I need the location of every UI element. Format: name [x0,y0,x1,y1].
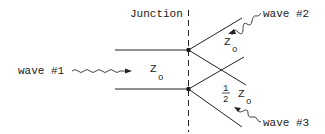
lower-coefficient-denominator: 2 [223,95,228,105]
upper-impedance-symbol: Z [224,36,231,48]
lower-coefficient-numerator: 1 [223,84,228,94]
transmission-line-junction-diagram: Junction wave #1 Z o wave #2 Z o 1 2 Z o… [0,0,325,134]
wave2-squiggle-arrow [232,13,261,35]
lower-impedance-symbol: Z [238,88,245,100]
branch-lower-inner [189,57,245,89]
wave3-squiggle-arrow [237,108,261,122]
wave3-label: wave #3 [263,117,309,129]
main-impedance-subscript: o [158,73,163,83]
wave1-squiggle-arrow [72,70,130,73]
wave2-label: wave #2 [263,8,309,20]
upper-impedance-subscript: o [232,45,237,55]
wave3-arrowhead-icon [234,107,241,112]
lower-impedance-subscript: o [246,97,251,107]
junction-label: Junction [130,8,183,20]
wave1-label: wave #1 [18,65,65,77]
main-impedance-symbol: Z [150,63,157,75]
branch-upper-inner [189,50,247,85]
branch-lower-outer [189,89,243,127]
wave1-arrowhead-icon [125,69,132,74]
